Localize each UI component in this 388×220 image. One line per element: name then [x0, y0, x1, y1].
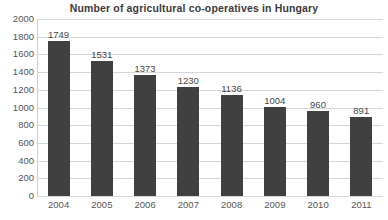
bar-group: 960 [297, 19, 340, 196]
y-axis-tick-label: 1000 [2, 103, 34, 113]
bar-group: 1136 [210, 19, 253, 196]
bar-value-label: 1531 [75, 49, 128, 60]
bar[interactable] [350, 117, 372, 196]
gridline [37, 196, 383, 197]
bar[interactable] [221, 95, 243, 196]
x-axis-tick-label: 2011 [340, 199, 383, 211]
plot-area: 174915311373123011361004960891 [37, 19, 383, 196]
bar-group: 1230 [167, 19, 210, 196]
bar[interactable] [177, 87, 199, 196]
bar[interactable] [91, 61, 113, 196]
y-axis-tick-label: 1400 [2, 67, 34, 77]
x-axis-tick-label: 2010 [297, 199, 340, 211]
y-axis-tick-label: 600 [2, 138, 34, 148]
y-axis-tick-label: 200 [2, 173, 34, 183]
x-axis-tick-label: 2008 [210, 199, 253, 211]
x-axis-tick-label: 2005 [80, 199, 123, 211]
x-axis-tick-label: 2007 [167, 199, 210, 211]
x-axis-tick-label: 2006 [124, 199, 167, 211]
y-axis-tick-label: 1800 [2, 32, 34, 42]
bar[interactable] [264, 107, 286, 196]
bar-value-label: 891 [335, 105, 388, 116]
y-axis: 2000180016001400120010008006004002000 [0, 0, 34, 220]
y-axis-tick-label: 800 [2, 120, 34, 130]
y-axis-tick-label: 400 [2, 156, 34, 166]
bar-group: 1531 [80, 19, 123, 196]
bar-value-label: 1373 [119, 63, 172, 74]
bar[interactable] [134, 75, 156, 197]
bar-chart: Number of agricultural co-operatives in … [0, 0, 388, 220]
bar-group: 1004 [253, 19, 296, 196]
bar-group: 1749 [37, 19, 80, 196]
x-axis: 20042005200620072008200920102011 [37, 199, 383, 215]
bar-value-label: 1136 [205, 83, 258, 94]
y-axis-tick-label: 2000 [2, 14, 34, 24]
chart-title: Number of agricultural co-operatives in … [0, 2, 388, 14]
bar[interactable] [48, 41, 70, 196]
bar-group: 1373 [124, 19, 167, 196]
y-axis-tick-label: 1600 [2, 49, 34, 59]
y-axis-tick-label: 0 [2, 191, 34, 201]
bar[interactable] [307, 111, 329, 196]
y-axis-tick-label: 1200 [2, 85, 34, 95]
bar-value-label: 1749 [32, 29, 85, 40]
x-axis-tick-label: 2004 [37, 199, 80, 211]
x-axis-tick-label: 2009 [253, 199, 296, 211]
bar-group: 891 [340, 19, 383, 196]
